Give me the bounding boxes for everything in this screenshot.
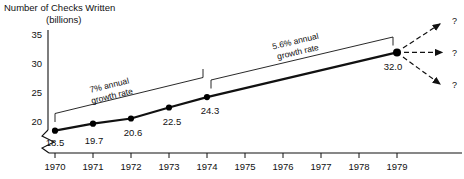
x-tick-1972: 1972 bbox=[120, 161, 141, 172]
data-point-1973 bbox=[166, 104, 172, 110]
y-tick-35: 35 bbox=[31, 29, 42, 40]
checks-written-chart: Number of Checks Written (billions) 35 3… bbox=[0, 0, 464, 179]
x-tick-1978: 1978 bbox=[348, 161, 369, 172]
y-tick-30: 30 bbox=[31, 58, 42, 69]
x-tick-1979: 1979 bbox=[386, 161, 407, 172]
value-label-1972: 20.6 bbox=[124, 127, 143, 138]
projection-arrows bbox=[403, 24, 442, 84]
chart-canvas: Number of Checks Written (billions) 35 3… bbox=[0, 0, 464, 179]
x-tick-1976: 1976 bbox=[272, 161, 293, 172]
projection-flat-label: ? bbox=[452, 48, 457, 58]
data-point-1970 bbox=[52, 128, 58, 134]
y-tick-20: 20 bbox=[31, 116, 42, 127]
value-label-1970: 18.5 bbox=[46, 137, 65, 148]
data-point-1972 bbox=[128, 115, 134, 121]
growth-bracket-2-label: 5.6% annual growth rate bbox=[271, 31, 322, 62]
data-point-1971 bbox=[90, 121, 96, 127]
value-label-1974: 24.3 bbox=[201, 105, 220, 116]
chart-subtitle: (billions) bbox=[46, 14, 81, 25]
value-label-1979: 32.0 bbox=[384, 61, 403, 72]
chart-title: Number of Checks Written bbox=[4, 2, 115, 13]
projection-down-arrow bbox=[403, 57, 440, 84]
x-tick-1975: 1975 bbox=[234, 161, 255, 172]
projection-up-label: ? bbox=[452, 16, 457, 26]
x-tick-1970: 1970 bbox=[44, 161, 65, 172]
data-point-1979 bbox=[393, 48, 401, 56]
data-point-1974 bbox=[204, 94, 210, 100]
value-label-1973: 22.5 bbox=[163, 116, 182, 127]
projection-up-arrow bbox=[403, 24, 440, 48]
value-label-1971: 19.7 bbox=[85, 135, 104, 146]
x-tick-1977: 1977 bbox=[310, 161, 331, 172]
x-tick-1971: 1971 bbox=[82, 161, 103, 172]
x-tick-1973: 1973 bbox=[158, 161, 179, 172]
y-tick-25: 25 bbox=[31, 87, 42, 98]
x-tick-marks bbox=[55, 153, 397, 158]
growth-bracket-1-label: 7% annual growth rate bbox=[87, 75, 134, 106]
projection-down-label: ? bbox=[452, 80, 457, 90]
x-tick-1974: 1974 bbox=[196, 161, 217, 172]
